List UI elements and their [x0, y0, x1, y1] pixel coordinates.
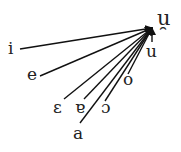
- arrow-3: [84, 28, 152, 99]
- source-label: ɐ: [75, 99, 85, 116]
- source-label: e: [27, 66, 37, 83]
- source-label: ɛ: [53, 99, 62, 116]
- arrow-4: [105, 28, 152, 101]
- source-label: o: [123, 71, 133, 88]
- source-label: i: [8, 40, 13, 57]
- diagram: u̯ ieɛɐɔaou: [0, 0, 181, 152]
- source-label: ɔ: [101, 99, 111, 116]
- source-label: a: [73, 125, 83, 142]
- arrow-1: [40, 28, 152, 76]
- arrow-2: [64, 28, 152, 99]
- arrow-5: [80, 28, 152, 123]
- target-label: u̯: [157, 8, 171, 29]
- source-label: u: [146, 43, 157, 60]
- arrow-0: [20, 28, 152, 49]
